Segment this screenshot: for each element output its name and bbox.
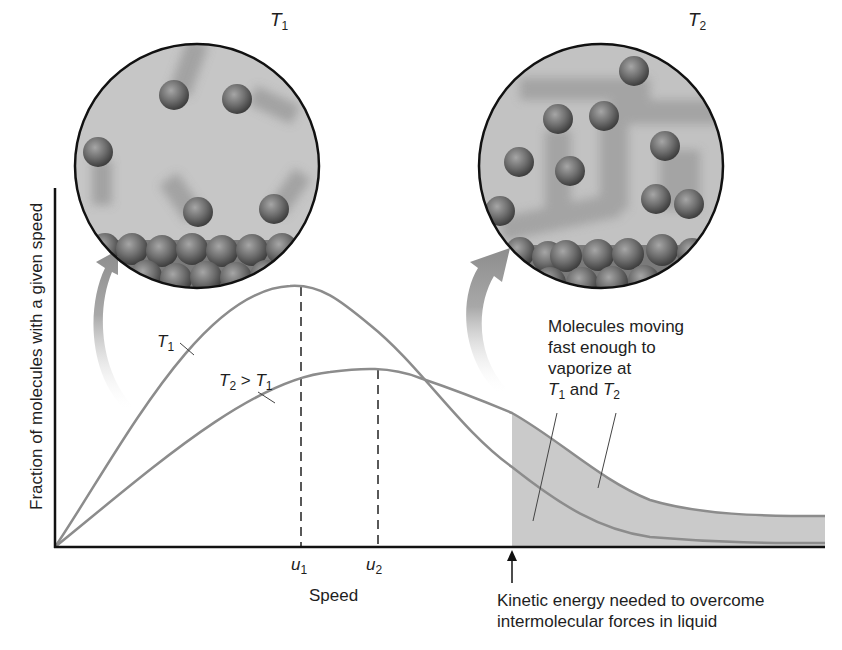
t1-subscript: 1 <box>282 19 289 33</box>
annotation-t1-symbol: T <box>548 380 558 399</box>
y-axis-label: Fraction of molecules with a given speed <box>27 220 47 510</box>
threshold-line-2: intermolecular forces in liquid <box>497 611 764 632</box>
t2-curve-compare-symbol: T <box>255 371 265 390</box>
t1-circle-title: T1 <box>270 10 288 33</box>
kinetic-energy-threshold-label: Kinetic energy needed to overcome interm… <box>497 590 764 632</box>
t1-curve <box>55 286 825 547</box>
t1-curve-subscript: 1 <box>167 340 174 354</box>
annotation-t2-symbol: T <box>603 380 613 399</box>
u2-subscript: 2 <box>375 563 382 577</box>
annotation-line-4: T1 and T2 <box>548 379 684 406</box>
t2-curve-symbol: T <box>219 371 229 390</box>
t2-subscript: 2 <box>700 19 707 33</box>
t2-molecule-view <box>475 44 735 300</box>
vaporize-annotation: Molecules moving fast enough to vaporize… <box>548 316 684 406</box>
annotation-line-1: Molecules moving <box>548 316 684 337</box>
u1-subscript: 1 <box>300 563 307 577</box>
evaporation-arrow-right-icon <box>466 248 510 395</box>
annotation-line-3: vaporize at <box>548 358 684 379</box>
t1-curve-label: T1 <box>157 333 174 354</box>
u2-tick-label: u2 <box>366 556 382 577</box>
vaporize-shaded-region <box>512 413 825 547</box>
maxwell-boltzmann-diagram: T1 T2 T1 T2 > T1 u1 u2 Speed Fraction of… <box>0 0 842 650</box>
t2-circle-title: T2 <box>688 10 706 33</box>
t2-curve-label: T2 > T1 <box>219 372 273 393</box>
u1-tick-label: u1 <box>291 556 307 577</box>
threshold-line-1: Kinetic energy needed to overcome <box>497 590 764 611</box>
t2-curve-compare-subscript: 1 <box>266 379 273 393</box>
t2-label-leader <box>258 392 275 403</box>
t1-symbol: T <box>270 9 282 30</box>
x-axis-label: Speed <box>309 587 358 606</box>
t2-curve-operator: > <box>236 371 255 390</box>
annotation-line-2: fast enough to <box>548 337 684 358</box>
annotation-and: and <box>565 380 603 399</box>
annotation-t2-subscript: 2 <box>613 388 620 402</box>
t2-symbol: T <box>688 9 700 30</box>
evaporation-arrow-left-icon <box>93 250 132 412</box>
t1-curve-symbol: T <box>157 332 167 351</box>
threshold-arrow-icon <box>507 550 517 583</box>
